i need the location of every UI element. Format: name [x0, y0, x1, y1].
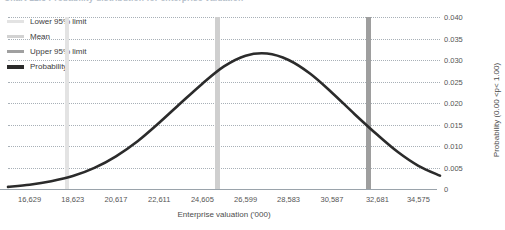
- y-axis-title-wrap: Probability (0.00 <p< 1.00): [489, 30, 503, 190]
- x-axis-tick-label: 34,575: [407, 195, 430, 204]
- probability-curve: [8, 17, 440, 189]
- x-axis-tick-label: 28,583: [277, 195, 300, 204]
- x-axis-tick-label: 32,681: [366, 195, 389, 204]
- x-axis-tick-label: 18,623: [61, 195, 84, 204]
- y-axis-tick-label: 0.030: [444, 56, 463, 65]
- probability-distribution-chart: Chart 12.3 Probability distribution for …: [0, 0, 505, 230]
- x-axis-tick-label: 24,605: [191, 195, 214, 204]
- y-axis-tick-label: 0.020: [444, 99, 463, 108]
- y-axis-tick-label: 0.005: [444, 163, 463, 172]
- y-axis-tick-label: 0.010: [444, 142, 463, 151]
- y-axis-tick-label: 0: [444, 185, 448, 194]
- x-axis-tick-label: 22,611: [148, 195, 170, 204]
- y-axis-tick-label: 0.025: [444, 77, 463, 86]
- x-axis-tick-label: 16,629: [18, 195, 41, 204]
- y-axis-tick-label: 0.035: [444, 34, 463, 43]
- x-axis-tick-label: 20,617: [105, 195, 128, 204]
- y-axis-tick-label: 0.015: [444, 120, 463, 129]
- y-axis-tick-label: 0.040: [444, 13, 463, 22]
- probability-curve-path: [8, 53, 440, 187]
- x-axis-tick-label: 26,599: [234, 195, 257, 204]
- y-axis-title: Probability (0.00 <p< 1.00): [492, 63, 501, 157]
- x-axis-line: [0, 189, 437, 190]
- x-axis-tick-label: 30,587: [321, 195, 344, 204]
- plot-area: [8, 17, 440, 189]
- x-axis-title: Enterprise valuation ('000): [177, 210, 270, 219]
- chart-title: Chart 12.3 Probability distribution for …: [4, 0, 243, 3]
